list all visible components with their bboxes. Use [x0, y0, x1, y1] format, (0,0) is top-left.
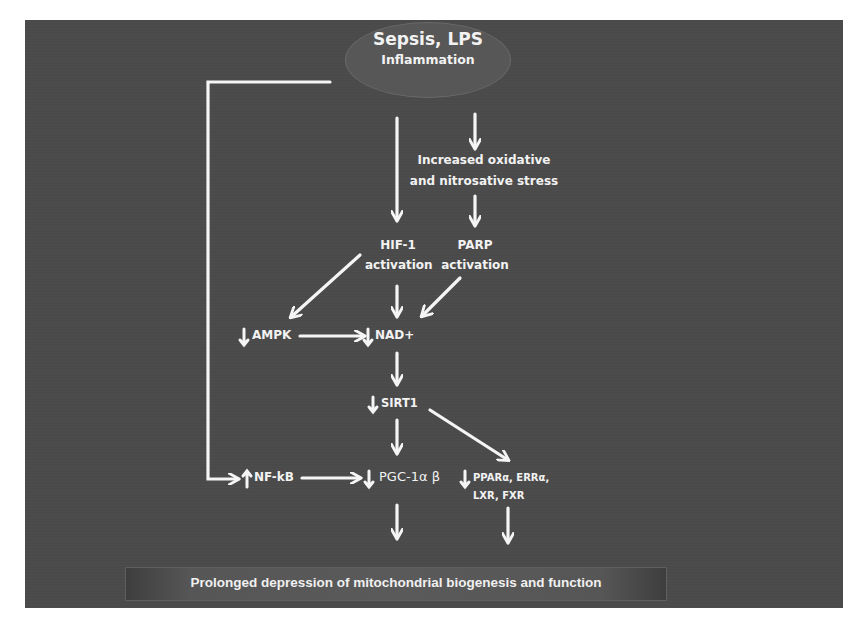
arrows-layer	[0, 0, 862, 618]
arrow-source-to-nfkb	[208, 82, 330, 479]
down-arrow-icon-pgc1	[365, 471, 373, 487]
node-parp-line2: activation	[440, 259, 510, 273]
outcome-banner: Prolonged depression of mitochondrial bi…	[125, 567, 667, 601]
node-sirt1: SIRT1	[381, 397, 418, 410]
node-oxidative-stress-line2: and nitrosative stress	[406, 175, 562, 189]
node-hif1-line2: activation	[365, 259, 431, 273]
node-hif1-line1: HIF-1	[365, 239, 431, 253]
arrow-hif1-to-ampk	[291, 255, 360, 317]
node-oxidative-stress-line1: Increased oxidative	[416, 154, 552, 168]
node-nfkb: NF-kB	[254, 471, 294, 485]
node-pgc1: PGC-1α β	[379, 470, 440, 485]
node-ppar-line2: LXR, FXR	[473, 490, 525, 502]
node-ppar-line1: PPARα, ERRα,	[473, 472, 549, 484]
node-ampk: AMPK	[252, 329, 291, 343]
up-arrow-icon-nfkb	[243, 471, 251, 487]
down-arrow-icon-ppar	[461, 471, 469, 487]
arrow-parp-to-nad	[422, 278, 460, 316]
node-parp-line1: PARP	[440, 239, 510, 253]
arrow-sirt1-to-ppar	[430, 410, 508, 460]
down-arrow-icon-ampk	[240, 329, 248, 345]
outcome-label: Prolonged depression of mitochondrial bi…	[126, 575, 666, 590]
down-arrow-icon-sirt1	[369, 397, 377, 412]
node-nad: NAD+	[375, 329, 414, 343]
